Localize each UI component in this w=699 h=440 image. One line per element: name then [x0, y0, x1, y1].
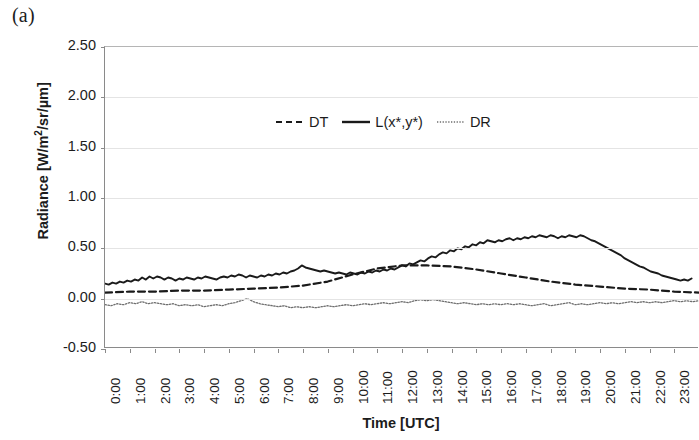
x-tick-label: 22:00	[654, 370, 668, 404]
x-tick-label: 16:00	[505, 370, 519, 404]
x-tick-label: 1:00	[134, 378, 148, 404]
x-tick-label: 17:00	[530, 370, 544, 404]
x-tick-label: 11:00	[381, 371, 395, 404]
x-tick-label: 8:00	[307, 378, 321, 404]
x-tick-label: 3:00	[183, 378, 197, 404]
x-tick-label: 7:00	[282, 378, 296, 404]
x-tick-label: 19:00	[579, 370, 593, 404]
x-tick-label: 0:00	[109, 378, 123, 404]
x-tick-label: 14:00	[456, 370, 470, 404]
x-tick-label: 20:00	[604, 370, 618, 404]
x-tick-label: 15:00	[480, 370, 494, 404]
x-tick-label: 5:00	[233, 378, 247, 404]
x-tick-label: 6:00	[258, 378, 272, 404]
x-tick-label: 18:00	[555, 370, 569, 404]
x-tick-label: 2:00	[159, 378, 173, 404]
x-tick-label: 9:00	[332, 378, 346, 404]
x-tick-label: 21:00	[629, 370, 643, 404]
x-axis-title: Time [UTC]	[104, 415, 698, 431]
x-tick-label: 10:00	[357, 370, 371, 404]
x-tick-label: 13:00	[431, 370, 445, 404]
x-tick-label: 23:00	[678, 370, 692, 404]
x-tick-label: 4:00	[208, 378, 222, 404]
x-tick-label: 12:00	[406, 370, 420, 404]
